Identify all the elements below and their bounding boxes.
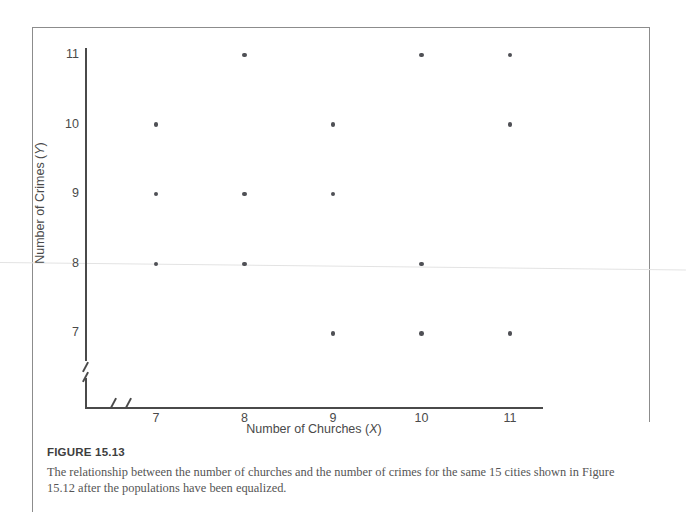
- data-point: [508, 331, 513, 336]
- y-axis-label-variable: Y: [33, 146, 47, 154]
- y-tick-label: 8: [53, 256, 79, 270]
- figure-caption: FIGURE 15.13 The relationship between th…: [47, 446, 627, 496]
- x-axis-label-variable: X: [369, 422, 377, 436]
- scatter-plot: 7891011 7891011 Number of Crimes (Y) Num…: [0, 0, 686, 430]
- data-point: [242, 53, 247, 58]
- y-axis-break-mark: [82, 362, 89, 373]
- y-axis-label-text: Number of Crimes (: [33, 155, 47, 264]
- data-point: [331, 331, 336, 336]
- x-axis-label-text: Number of Churches (: [246, 422, 369, 436]
- y-axis-label: Number of Crimes (Y): [33, 103, 47, 303]
- y-axis-stub: [85, 378, 87, 408]
- trendline: [0, 262, 686, 271]
- data-point: [331, 122, 336, 127]
- data-point: [508, 122, 513, 127]
- x-tick-label: 11: [495, 411, 525, 425]
- data-point: [154, 122, 159, 127]
- x-axis-line: [85, 407, 543, 409]
- y-tick-label: 10: [53, 117, 79, 131]
- data-point: [154, 262, 159, 267]
- data-point: [242, 192, 247, 197]
- data-point: [331, 192, 336, 197]
- data-point: [154, 192, 159, 197]
- data-point: [419, 53, 424, 58]
- x-axis-label: Number of Churches (X): [164, 422, 464, 436]
- data-point: [508, 53, 513, 58]
- figure-container: 7891011 7891011 Number of Crimes (Y) Num…: [0, 0, 686, 512]
- data-point: [242, 262, 247, 267]
- data-point: [419, 262, 424, 267]
- y-axis-line: [85, 48, 87, 361]
- figure-caption-text: The relationship between the number of c…: [47, 465, 627, 496]
- y-tick-label: 7: [53, 325, 79, 339]
- data-point: [419, 331, 424, 336]
- figure-number-label: FIGURE 15.13: [47, 446, 627, 458]
- y-tick-label: 11: [53, 47, 79, 61]
- y-tick-label: 9: [53, 186, 79, 200]
